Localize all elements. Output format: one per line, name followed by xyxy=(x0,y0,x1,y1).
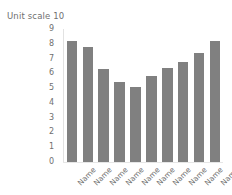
bar-chart: Unit scale 10 9876543210 NameNameNameNam… xyxy=(0,0,232,195)
bar[interactable] xyxy=(162,68,172,162)
y-axis-tick-label: 1 xyxy=(0,143,58,151)
bar[interactable] xyxy=(210,41,220,162)
x-axis-tick-labels: NameNameNameNameNameNameNameNameNameName xyxy=(64,164,223,195)
bar-slot xyxy=(128,29,144,162)
bar-slot xyxy=(191,29,207,162)
bar-slot xyxy=(144,29,160,162)
bar-series xyxy=(64,29,223,162)
bar[interactable] xyxy=(67,41,77,162)
bar[interactable] xyxy=(83,47,93,162)
bar[interactable] xyxy=(114,82,124,162)
y-axis-tick-label: 0 xyxy=(0,158,58,166)
bar-slot xyxy=(80,29,96,162)
bar-slot xyxy=(175,29,191,162)
y-axis-tick-label: 4 xyxy=(0,99,58,107)
y-axis-tick-label: 5 xyxy=(0,84,58,92)
bar-slot xyxy=(159,29,175,162)
y-axis-tick-label: 9 xyxy=(0,25,58,33)
bar[interactable] xyxy=(194,53,204,162)
bar-slot xyxy=(96,29,112,162)
y-axis-tick-label: 8 xyxy=(0,40,58,48)
y-axis-tick-label: 7 xyxy=(0,55,58,63)
y-axis-tick-label: 6 xyxy=(0,69,58,77)
bar[interactable] xyxy=(98,69,108,162)
x-axis-line xyxy=(63,162,223,163)
bar[interactable] xyxy=(130,87,140,162)
bar-slot xyxy=(207,29,223,162)
bar-slot xyxy=(64,29,80,162)
y-axis-tick-label: 3 xyxy=(0,114,58,122)
y-axis-tick-label: 2 xyxy=(0,128,58,136)
y-axis-tick-labels: 9876543210 xyxy=(0,0,58,195)
bar[interactable] xyxy=(178,62,188,162)
bar-slot xyxy=(112,29,128,162)
bar[interactable] xyxy=(146,76,156,162)
